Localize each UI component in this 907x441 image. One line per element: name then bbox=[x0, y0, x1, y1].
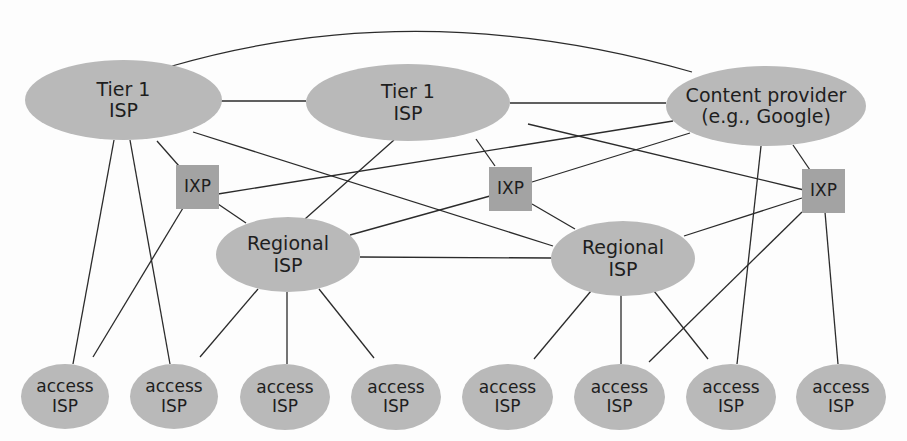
link-ixp2-regionala bbox=[350, 196, 490, 235]
link-ixp1-access1 bbox=[93, 208, 183, 357]
access-isp-label-line2: ISP bbox=[718, 397, 744, 416]
regional-isp-label-line1: Regional bbox=[247, 233, 329, 254]
link-tier1a-access2 bbox=[130, 140, 170, 364]
link-regionalb-access5 bbox=[534, 291, 591, 359]
access-isp-label-line1: access bbox=[702, 378, 759, 397]
access-isp-label-line1: access bbox=[145, 377, 202, 396]
regional-isp-label-line2: ISP bbox=[608, 259, 637, 280]
ixp-label: IXP bbox=[184, 177, 211, 196]
link-tier1b-regionala bbox=[305, 140, 394, 219]
tier1-isp-node: Tier 1 ISP bbox=[25, 60, 222, 140]
content-provider-label-line2: (e.g., Google) bbox=[701, 106, 831, 127]
link-ixp3-regionalb bbox=[684, 198, 802, 236]
access-isp-label-line1: access bbox=[479, 378, 536, 397]
tier1-isp-label-line1: Tier 1 bbox=[381, 81, 435, 102]
access-isp-label-line1: access bbox=[36, 377, 93, 396]
tier1-isp-label-line2: ISP bbox=[393, 103, 422, 124]
link-ixp3-access8 bbox=[825, 212, 838, 364]
regional-isp-node: Regional ISP bbox=[216, 217, 360, 292]
link-content-ixp3 bbox=[793, 145, 810, 170]
access-isp-label-line1: access bbox=[812, 378, 869, 397]
link-tier1a-ixp1 bbox=[157, 141, 179, 166]
access-isp-node: access ISP bbox=[240, 364, 330, 430]
access-isp-label-line1: access bbox=[256, 378, 313, 397]
access-isp-node: access ISP bbox=[130, 364, 218, 429]
link-regionala-regionalb bbox=[360, 257, 551, 258]
access-isp-node: access ISP bbox=[21, 364, 109, 429]
access-isp-node: access ISP bbox=[796, 364, 886, 430]
access-isp-node: access ISP bbox=[686, 364, 776, 430]
access-isp-label-line2: ISP bbox=[494, 397, 520, 416]
link-regionala-access4 bbox=[319, 289, 374, 358]
link-ixp1-regionala bbox=[218, 204, 246, 223]
ixp-node: IXP bbox=[802, 169, 845, 213]
regional-isp-label-line2: ISP bbox=[273, 255, 302, 276]
access-isp-label-line1: access bbox=[591, 378, 648, 397]
ixp-label: IXP bbox=[810, 181, 837, 200]
access-isp-label-line2: ISP bbox=[272, 397, 298, 416]
access-isp-node: access ISP bbox=[351, 364, 441, 430]
content-provider-node: Content provider (e.g., Google) bbox=[666, 66, 866, 146]
access-isp-label-line2: ISP bbox=[606, 397, 632, 416]
access-isp-label-line2: ISP bbox=[383, 397, 409, 416]
regional-isp-label-line1: Regional bbox=[582, 237, 664, 258]
tier1-isp-node: Tier 1 ISP bbox=[306, 64, 510, 141]
access-isp-node: access ISP bbox=[574, 364, 665, 430]
isp-network-diagram: Tier 1 ISP Tier 1 ISP Content provider (… bbox=[0, 0, 907, 441]
regional-isp-node: Regional ISP bbox=[551, 221, 695, 296]
access-isp-node: access ISP bbox=[462, 364, 553, 430]
ixp-label: IXP bbox=[497, 179, 524, 198]
access-isp-label-line2: ISP bbox=[161, 397, 187, 416]
ixp-node: IXP bbox=[176, 165, 219, 209]
access-isp-label-line2: ISP bbox=[52, 397, 78, 416]
link-ixp2-regionalb bbox=[532, 204, 575, 229]
tier1-isp-label-line1: Tier 1 bbox=[97, 79, 151, 100]
tier1-isp-label-line2: ISP bbox=[109, 100, 138, 121]
access-isp-label-line1: access bbox=[367, 378, 424, 397]
content-provider-label-line1: Content provider bbox=[686, 85, 847, 106]
access-isp-label-line2: ISP bbox=[828, 397, 854, 416]
link-tier1a-access1 bbox=[73, 140, 114, 364]
ixp-node: IXP bbox=[489, 167, 532, 211]
link-regionala-access2 bbox=[200, 289, 258, 357]
